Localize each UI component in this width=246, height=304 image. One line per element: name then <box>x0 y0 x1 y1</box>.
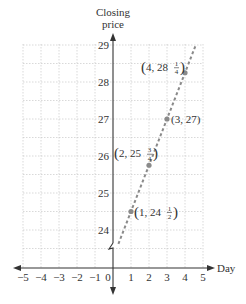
y-axis-down-arrow-icon <box>110 287 116 295</box>
point-labels: (1, 2412)(2, 2534)(3, 27)(4, 2814) <box>114 59 201 221</box>
data-point <box>164 116 169 121</box>
x-tick-label: −4 <box>35 271 47 283</box>
x-tick-label: 1 <box>128 271 134 283</box>
y-axis-up-arrow-icon <box>110 33 116 41</box>
fraction-numerator: 1 <box>168 205 172 213</box>
y-tick-label: 29 <box>98 39 110 51</box>
data-point <box>146 163 151 168</box>
point-label: (3, 27) <box>171 113 201 126</box>
point-label: (1, 2412) <box>134 204 178 222</box>
x-tick-label: 5 <box>200 271 206 283</box>
point-label-text: 1, 24 <box>139 206 162 218</box>
fraction-numerator: 1 <box>175 60 179 68</box>
y-tick-label: 24 <box>98 224 110 236</box>
fraction-denominator: 4 <box>148 155 152 163</box>
point-label-text: 2, 25 <box>119 147 142 159</box>
x-axis-title: Day <box>217 262 236 274</box>
data-point <box>128 209 133 214</box>
fraction-numerator: 3 <box>148 146 152 154</box>
point-label: (4, 2814) <box>141 59 185 77</box>
fraction-denominator: 4 <box>175 68 179 76</box>
x-axis-right-arrow-icon <box>207 265 215 271</box>
x-tick-label: 4 <box>182 271 188 283</box>
line-chart: −5−4−3−2−1012345 242526272829 (1, 2412)(… <box>0 0 246 304</box>
x-tick-label: 2 <box>146 271 152 283</box>
point-label-paren-close: ) <box>180 59 185 76</box>
x-tick-label: −3 <box>53 271 65 283</box>
y-tick-label: 28 <box>98 76 110 88</box>
y-axis-title-line-1: Closing <box>96 6 131 18</box>
y-axis-break-icon <box>109 243 113 252</box>
y-axis-title-line-2: price <box>102 18 124 30</box>
y-tick-label: 26 <box>98 150 110 162</box>
x-tick-label: 3 <box>164 271 170 283</box>
y-tick-label: 27 <box>98 113 110 125</box>
point-label-text: 4, 28 <box>146 61 169 73</box>
fraction-denominator: 2 <box>168 213 172 221</box>
x-tick-label: −2 <box>71 271 83 283</box>
point-label-paren-close: ) <box>153 145 158 162</box>
x-tick-label: −1 <box>89 271 101 283</box>
x-tick-labels: −5−4−3−2−1012345 <box>17 271 206 283</box>
y-tick-label: 25 <box>98 187 110 199</box>
point-label-text: (3, 27) <box>171 113 201 126</box>
x-tick-label: −5 <box>17 271 29 283</box>
x-tick-label: 0 <box>105 271 111 283</box>
point-label-paren-close: ) <box>173 204 178 221</box>
